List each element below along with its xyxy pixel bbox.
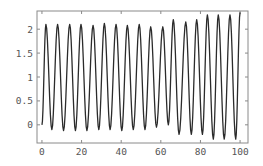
line-chart: 00.511.52 020406080100	[0, 0, 263, 166]
x-tick-label: 80	[195, 146, 207, 157]
x-tick-label: 0	[39, 146, 45, 157]
y-tick-label: 2	[27, 24, 33, 35]
y-tick-label: 1	[27, 72, 33, 83]
x-tick-label: 20	[76, 146, 88, 157]
data-series-line	[42, 12, 240, 139]
y-tick-label: 0	[27, 119, 33, 130]
y-tick-label: 0.5	[16, 95, 33, 106]
x-tick-label: 60	[155, 146, 167, 157]
x-tick-label: 100	[231, 146, 248, 157]
x-tick-label: 40	[115, 146, 127, 157]
y-tick-label: 1.5	[16, 48, 33, 59]
